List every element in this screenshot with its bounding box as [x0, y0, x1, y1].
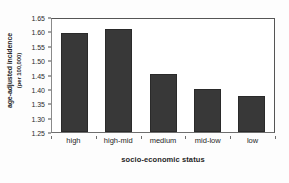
x-tick-label-low: low: [230, 136, 275, 148]
x-tick-mark: [96, 136, 97, 139]
x-tick-mark: [230, 136, 231, 139]
y-axis-title: age-adjusted incidence (per 100,000): [2, 0, 28, 140]
x-axis-tick-labels: highhigh-midmediummid-lowlow: [51, 136, 275, 148]
bar-series: [52, 19, 274, 132]
bar-low[interactable]: [238, 96, 265, 132]
y-tick-label: 1.35: [31, 101, 45, 108]
bar-high[interactable]: [61, 33, 88, 132]
x-axis-title: socio-economic status: [51, 155, 275, 164]
y-axis-title-line2: (per 100,000): [15, 32, 24, 107]
y-tick-label: 1.40: [31, 86, 45, 93]
y-axis-tick-labels: 1.251.301.351.401.451.501.551.601.65: [26, 18, 48, 133]
y-tick-label: 1.65: [31, 15, 45, 22]
bar-high-mid[interactable]: [105, 29, 132, 132]
y-tick-label: 1.50: [31, 58, 45, 65]
x-tick-label-high: high: [51, 136, 96, 148]
x-tick-mark: [185, 136, 186, 139]
bar-slot: [185, 19, 229, 132]
y-tick-label: 1.45: [31, 72, 45, 79]
y-tick-label: 1.25: [31, 130, 45, 137]
y-axis-title-line1: age-adjusted incidence: [7, 32, 14, 107]
bar-slot: [141, 19, 185, 132]
x-tick-mark: [275, 136, 276, 139]
x-tick-mark: [51, 136, 52, 139]
y-tick-label: 1.30: [31, 115, 45, 122]
bar-medium[interactable]: [150, 74, 177, 132]
bar-chart-figure: age-adjusted incidence (per 100,000) 1.2…: [0, 0, 289, 183]
plot-area: [51, 18, 275, 133]
x-tick-label-mid-low: mid-low: [185, 136, 230, 148]
x-tick-mark: [141, 136, 142, 139]
x-tick-label-medium: medium: [141, 136, 186, 148]
bar-slot: [52, 19, 96, 132]
y-tick-label: 1.60: [31, 29, 45, 36]
bar-mid-low[interactable]: [194, 89, 221, 132]
bar-slot: [96, 19, 140, 132]
bar-slot: [230, 19, 274, 132]
y-tick-label: 1.55: [31, 43, 45, 50]
x-tick-label-high-mid: high-mid: [96, 136, 141, 148]
